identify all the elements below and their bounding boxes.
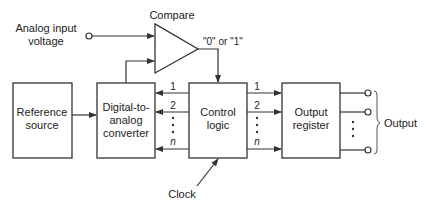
reference-label-1: Reference <box>17 106 68 118</box>
analog-input: Analog input voltage <box>15 22 154 47</box>
bus-left-label-1: 1 <box>170 81 176 92</box>
comparator: Compare "0" or "1" <box>149 9 243 82</box>
bus-left-label-n: n <box>170 136 176 147</box>
dac-label-1: Digital-to- <box>102 101 149 113</box>
output-terminal-icon <box>365 109 371 115</box>
control-to-register-bus: 1 2 n <box>247 81 281 149</box>
output-terminal-icon <box>365 147 371 153</box>
output-terminal-icon <box>365 90 371 96</box>
analog-input-label-2: voltage <box>28 35 63 47</box>
dac-to-comparator-wire <box>126 61 154 83</box>
dac-label-3: converter <box>103 127 149 139</box>
adc-block-diagram: Analog input voltage Compare "0" or "1" … <box>0 0 426 210</box>
control-logic-block: Control logic <box>189 83 247 158</box>
output-register-block: Output register <box>282 83 340 158</box>
input-terminal-icon <box>86 33 92 39</box>
control-label-1: Control <box>200 106 235 118</box>
clock-label: Clock <box>168 188 196 200</box>
register-label-2: register <box>293 119 330 131</box>
output-terminals: Output <box>340 90 417 154</box>
reference-source-block: Reference source <box>13 83 72 158</box>
clock-input: Clock <box>168 159 218 200</box>
control-to-dac-bus: 1 2 n <box>156 81 189 149</box>
output-brace-icon <box>374 91 380 154</box>
analog-input-label-1: Analog input <box>15 22 76 34</box>
comparator-output-label: "0" or "1" <box>203 36 243 47</box>
bus-right-label-1: 1 <box>254 81 260 92</box>
bus-right-label-n: n <box>254 136 260 147</box>
control-label-2: logic <box>207 119 230 131</box>
comparator-to-control-wire <box>198 49 218 82</box>
register-label-1: Output <box>294 106 327 118</box>
bus-right-label-2: 2 <box>254 100 260 111</box>
comparator-label: Compare <box>149 9 194 21</box>
bus-left-label-2: 2 <box>170 100 176 111</box>
dac-label-2: analog <box>109 114 142 126</box>
dac-block: Digital-to- analog converter <box>97 83 155 158</box>
comparator-triangle-icon <box>155 24 198 73</box>
reference-label-2: source <box>25 119 58 131</box>
output-label: Output <box>384 117 417 129</box>
